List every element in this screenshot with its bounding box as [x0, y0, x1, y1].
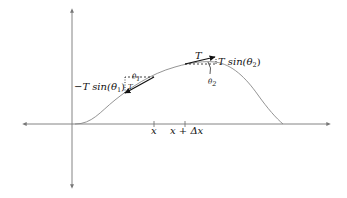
tick-x-plus-dx-label: x + Δx: [170, 125, 204, 136]
left-tension-group: θ1 T −T sin(θ1): [74, 73, 154, 94]
right-tension-group: T T sin(θ2) θ2: [185, 50, 261, 88]
tick-x-plus-dx: x + Δx: [170, 121, 204, 136]
left-vertical-component-label: −T sin(θ1): [74, 81, 125, 94]
tick-x-label: x: [151, 125, 157, 136]
left-theta-label: θ1: [132, 73, 140, 83]
string-curve: [75, 62, 283, 124]
right-tension-label: T: [195, 50, 203, 61]
right-theta-label: θ2: [208, 78, 216, 88]
tick-x: x: [151, 121, 157, 136]
string-tension-diagram: x x + Δx θ1 T −T sin(θ1) T T sin(θ2) θ2: [0, 0, 347, 198]
right-vertical-component-label: T sin(θ2): [218, 56, 261, 69]
